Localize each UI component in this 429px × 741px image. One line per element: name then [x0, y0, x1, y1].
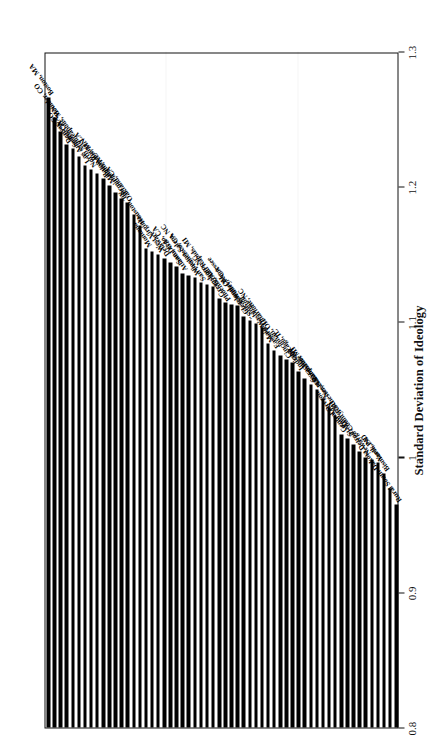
bar	[156, 254, 160, 727]
bar	[52, 117, 56, 727]
bar-row: St. Paul, MN	[345, 51, 349, 727]
bar-row: "Silicon Valley," CA	[248, 51, 252, 727]
bar-row: Delaware	[162, 51, 166, 727]
bar-row	[351, 51, 355, 727]
bar	[217, 298, 221, 727]
bar-row	[278, 51, 282, 727]
x-axis-tick	[398, 456, 404, 457]
bar-row	[229, 51, 233, 727]
bar-row: Montana	[144, 51, 148, 727]
x-axis-title: Standard Deviation of Ideology	[411, 52, 426, 728]
bar	[382, 473, 386, 727]
bar	[64, 144, 68, 727]
bar	[168, 262, 172, 727]
bar-row	[168, 51, 172, 727]
bar-row: Boston, MA	[46, 51, 50, 727]
bar	[321, 398, 325, 727]
bar	[394, 504, 398, 727]
bar	[351, 444, 355, 727]
bar	[107, 185, 111, 727]
bar	[260, 327, 264, 727]
bar-row: Rochester, NY	[333, 51, 337, 727]
bar	[315, 389, 319, 727]
bar-row	[254, 51, 258, 727]
bar	[83, 165, 87, 727]
x-axis-tick	[398, 321, 404, 322]
bar-row: Birmingham, AL	[119, 51, 123, 727]
bar	[77, 156, 81, 727]
bar	[71, 148, 75, 727]
bar	[357, 451, 361, 727]
bar	[272, 350, 276, 727]
bar	[132, 214, 136, 727]
bar-row: Atlanta, GA	[180, 51, 184, 727]
bar-row: Syracuse, NY	[309, 51, 313, 727]
bar	[101, 178, 105, 727]
bar	[333, 415, 337, 727]
x-axis-tick	[398, 592, 404, 593]
bar	[138, 225, 142, 727]
bar	[113, 192, 117, 727]
bar-row	[205, 51, 209, 727]
bar	[248, 320, 252, 727]
bar-row: Chicago, IL	[290, 51, 294, 727]
bar-row: Eastern Tennessee	[235, 51, 239, 727]
bar	[370, 459, 374, 727]
bar-chart-figure: Boston, MABoulder, CODenver, COSeattle, …	[0, 0, 429, 741]
bar	[95, 173, 99, 727]
bar	[205, 284, 209, 727]
bar	[327, 407, 331, 727]
bar	[162, 258, 166, 727]
bar	[296, 371, 300, 727]
bar-row: San Francisco, CA	[199, 51, 203, 727]
bar	[125, 202, 129, 727]
bar-row: Seattle, WA	[71, 51, 75, 727]
bar-row: Charlotte, NC	[260, 51, 264, 727]
bar-row	[113, 51, 117, 727]
bar-row: York, PA	[376, 51, 380, 727]
bar-row	[186, 51, 190, 727]
bar-row	[132, 51, 136, 727]
bar	[266, 343, 270, 727]
bar	[363, 457, 367, 727]
bar-row: San Diego, CA	[174, 51, 178, 727]
bar	[254, 323, 258, 727]
x-axis-tick	[398, 727, 404, 728]
bar-row: Houston, TX	[138, 51, 142, 727]
bar-row: Grand Rapids, MI	[211, 51, 215, 727]
x-axis-tick	[398, 186, 404, 187]
bar	[58, 131, 62, 727]
bars-container: Boston, MABoulder, CODenver, COSeattle, …	[45, 53, 397, 727]
bar-row	[370, 51, 374, 727]
bar	[309, 384, 313, 727]
bar	[180, 273, 184, 727]
bar	[290, 362, 294, 727]
bar-row: Rural South Dakota	[394, 51, 398, 727]
bar-row: Greensboro, NC	[217, 51, 221, 727]
bar	[376, 462, 380, 727]
bar-row: Central Oregon	[339, 51, 343, 727]
bar-row: Cincinnati, OH	[284, 51, 288, 727]
bar-row: Baton Rouge, LA	[101, 51, 105, 727]
bar-row	[58, 51, 62, 727]
bar-row: Minneapolis, MN	[107, 51, 111, 727]
bar-row: Phoenix, AZ	[223, 51, 227, 727]
bar	[193, 277, 197, 727]
bar-row: Indiana	[296, 51, 300, 727]
bar-row: Winston-Salem, NC	[193, 51, 197, 727]
bar	[284, 359, 288, 727]
x-axis-tick	[398, 51, 404, 52]
bar	[345, 438, 349, 727]
bar-row: Eastern Washington	[272, 51, 276, 727]
bar-row: Bismarck, ND	[382, 51, 386, 727]
bar-row: Maine	[266, 51, 270, 727]
bar	[388, 488, 392, 727]
bar-row: Newaygo County, MI	[363, 51, 367, 727]
figure-rotator: Boston, MABoulder, CODenver, COSeattle, …	[0, 0, 429, 741]
bar	[339, 434, 343, 727]
bar-row: West Virginia	[156, 51, 160, 727]
bar	[223, 302, 227, 727]
bar	[174, 266, 178, 727]
plot-frame: Boston, MABoulder, CODenver, COSeattle, …	[44, 52, 398, 728]
bar-row	[150, 51, 154, 727]
